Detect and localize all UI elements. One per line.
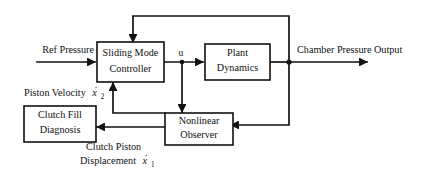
block-clutch-fill-diagnosis-line2: Diagnosis	[40, 124, 81, 135]
label-clutch-piston-subscript: 1	[151, 160, 155, 168]
block-sliding-mode-controller-line1: Sliding Mode	[103, 47, 159, 58]
label-control-signal-u: u	[179, 47, 184, 58]
junction-dot-u	[180, 60, 185, 65]
diagram-canvas: Sliding Mode Controller Plant Dynamics N…	[0, 0, 431, 173]
block-nonlinear-observer-line2: Observer	[180, 129, 218, 140]
block-diagram-figure: Sliding Mode Controller Plant Dynamics N…	[0, 0, 431, 173]
label-clutch-piston-line2: Displacement	[80, 155, 136, 166]
block-plant-dynamics-line2: Dynamics	[217, 62, 258, 73]
block-nonlinear-observer-line1: Nonlinear	[179, 115, 220, 126]
label-ref-pressure: Ref Pressure	[42, 44, 94, 55]
label-clutch-piston-dot: ·	[144, 150, 147, 161]
block-plant-dynamics-line1: Plant	[227, 47, 248, 58]
label-piston-velocity-text: Piston Velocity	[24, 87, 87, 98]
wire-observer-to-controller	[113, 83, 165, 113]
block-clutch-fill-diagnosis-line1: Clutch Fill	[38, 109, 82, 120]
label-piston-velocity-dot: ·	[94, 82, 97, 93]
label-piston-velocity: Piston Velocity x · 2	[24, 82, 105, 101]
label-clutch-piston-line1: Clutch Piston	[86, 141, 141, 152]
label-clutch-piston-displacement: Displacement x · 1	[80, 150, 155, 169]
label-piston-velocity-subscript: 2	[101, 92, 105, 100]
block-sliding-mode-controller-line2: Controller	[110, 63, 152, 74]
label-chamber-pressure-output: Chamber Pressure Output	[297, 44, 402, 55]
